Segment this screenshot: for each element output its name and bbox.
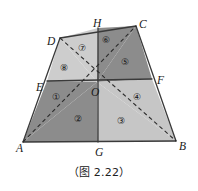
region-1-label: ① xyxy=(52,93,60,102)
region-3-label: ③ xyxy=(117,117,125,126)
figure-caption: （图 2.22） xyxy=(0,163,198,179)
vertex-label-F: F xyxy=(157,75,164,87)
vertex-label-C: C xyxy=(139,19,147,31)
vertex-label-B: B xyxy=(179,141,186,153)
region-8-label: ⑧ xyxy=(60,64,68,73)
region-7-label: ⑦ xyxy=(78,44,86,53)
vertex-label-A: A xyxy=(16,143,23,155)
region-fills-group xyxy=(23,26,176,142)
vertex-label-G: G xyxy=(95,147,103,159)
region-6-label: ⑥ xyxy=(102,36,110,45)
region-2-label: ② xyxy=(74,115,82,124)
geometry-figure: ABCDEFGHO ①②③④⑤⑥⑦⑧ （图 2.22） xyxy=(0,0,198,191)
vertex-label-O: O xyxy=(91,87,99,99)
vertex-label-E: E xyxy=(36,82,43,94)
vertex-label-D: D xyxy=(47,36,55,48)
vertex-label-H: H xyxy=(93,18,101,30)
region-4-label: ④ xyxy=(133,93,141,102)
region-5-label: ⑤ xyxy=(121,58,129,67)
